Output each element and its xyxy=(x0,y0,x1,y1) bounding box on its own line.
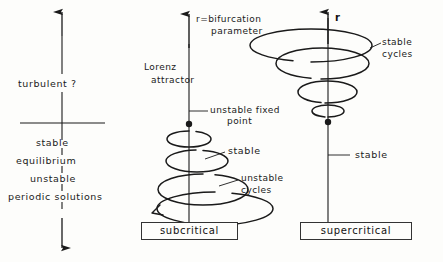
label-stable-cycles-line2: cycles xyxy=(382,49,413,60)
label-equilibrium: equilibrium xyxy=(16,155,76,166)
spiral-loop-2 xyxy=(166,150,228,172)
middle-stable-leader xyxy=(205,152,225,159)
supercritical-spiral xyxy=(250,29,372,117)
label-lorenz-line1: Lorenz xyxy=(144,62,177,73)
label-unstable-cycles-line2: cycles xyxy=(241,185,272,196)
label-unstable-fixed-point-line1: unstable fixed xyxy=(210,105,280,116)
label-stable-right: stable xyxy=(355,149,388,160)
label-bifurcation-parameter-line1: r=bifurcation xyxy=(196,14,261,25)
label-turbulent: turbulent ? xyxy=(18,78,77,89)
label-stable-left: stable xyxy=(36,137,69,148)
label-stable-middle: stable xyxy=(228,145,261,156)
bifurcation-figure: turbulent ? stable equilibrium unstable … xyxy=(0,0,443,262)
subcritical-box: subcritical xyxy=(141,222,238,240)
super-loop-4 xyxy=(250,29,372,62)
label-unstable-cycles-line1: unstable xyxy=(241,173,284,184)
label-lorenz-line2: attractor xyxy=(151,75,195,86)
label-unstable-fixed-point-line2: point xyxy=(227,116,252,127)
spiral-loop-4 xyxy=(157,192,273,225)
label-stable-cycles-line1: stable xyxy=(382,37,412,48)
label-bifurcation-parameter-line2: parameter xyxy=(211,26,263,37)
label-r-axis: r xyxy=(335,12,340,23)
left-panel-axis xyxy=(20,12,105,248)
right-fixed-point-dot xyxy=(325,119,331,125)
super-loop-3 xyxy=(276,48,369,79)
spiral-loop-3 xyxy=(158,174,248,205)
supercritical-box: supercritical xyxy=(300,222,412,240)
label-unstable-left: unstable xyxy=(30,173,76,184)
middle-unstable-fixed-point-dot xyxy=(186,121,192,127)
label-periodic-solutions: periodic solutions xyxy=(8,191,103,202)
middle-unstable-cycles-leader xyxy=(219,180,238,186)
